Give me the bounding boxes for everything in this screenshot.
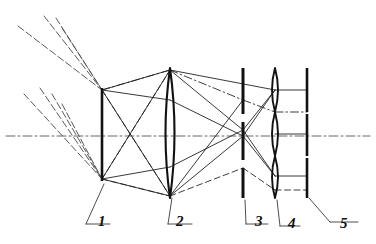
internal-solid-ray-5 <box>102 70 170 179</box>
leader-line-5-0 <box>309 198 330 222</box>
component-2-objective-lens <box>166 68 175 198</box>
internal-solid-rays-group <box>102 70 307 196</box>
internal-dashed-ray-3 <box>243 168 275 190</box>
internal-solid-ray-4 <box>102 167 170 179</box>
component-4-lenslet-array-lenslet-2 <box>272 156 278 198</box>
internal-solid-ray-2 <box>102 90 170 196</box>
internal-solid-ray-6 <box>170 70 243 130</box>
internal-solid-ray-1 <box>102 90 170 100</box>
internal-solid-ray-8 <box>170 136 243 196</box>
component-label-3: 3 <box>255 214 263 229</box>
internal-solid-ray-10 <box>243 90 275 130</box>
internal-dashdot-ray-1 <box>170 70 243 100</box>
figure-canvas: 1 2 3 4 5 <box>0 0 376 244</box>
component-label-2: 2 <box>176 214 184 229</box>
optical-components-group <box>102 68 307 198</box>
component-label-1: 1 <box>98 214 106 229</box>
internal-solid-ray-7 <box>170 100 243 136</box>
leader-line-4-0 <box>277 200 280 226</box>
internal-solid-ray-13 <box>243 130 275 176</box>
incoming-rays-group <box>18 16 102 179</box>
internal-solid-ray-3 <box>102 179 170 196</box>
incoming-ray-lower-2 <box>52 94 102 179</box>
incoming-ray-lower-1 <box>40 88 102 179</box>
incoming-ray-upper-0 <box>18 26 102 90</box>
component-label-5: 5 <box>340 216 348 231</box>
incoming-ray-upper-3 <box>62 28 102 90</box>
internal-solid-ray-12 <box>243 136 275 176</box>
leader-line-3-0 <box>245 200 246 224</box>
component-label-4: 4 <box>288 216 296 231</box>
optical-diagram-svg <box>0 0 376 244</box>
internal-solid-ray-17 <box>170 70 275 90</box>
internal-solid-ray-11 <box>243 90 275 136</box>
leader-line-2-0 <box>168 198 172 224</box>
internal-dashed-rays-group <box>102 70 307 196</box>
label-leader-lines-group <box>86 184 358 226</box>
